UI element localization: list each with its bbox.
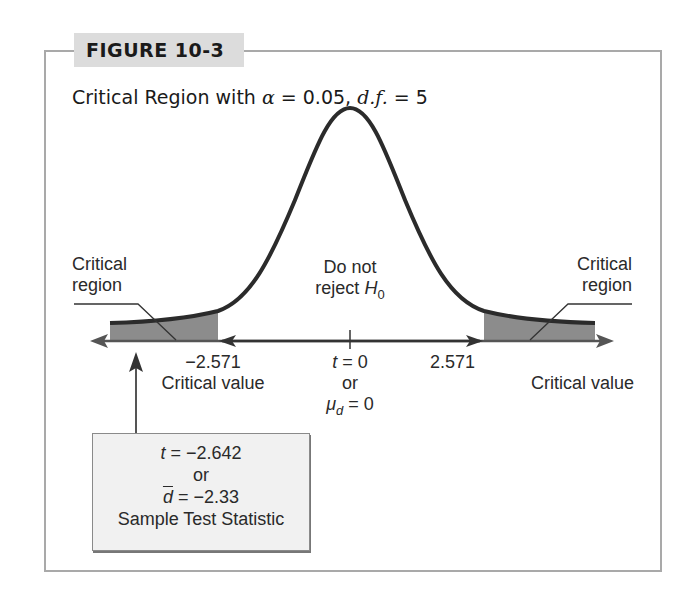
right-region-line1: Critical bbox=[560, 254, 632, 275]
center-value-label: t = 0 or μd = 0 bbox=[300, 352, 400, 421]
stat-t-value: = −2.642 bbox=[165, 443, 241, 463]
center-or: or bbox=[300, 373, 400, 394]
right-critical-value-label: 2.571 Critical value bbox=[414, 352, 634, 394]
left-region-label: Critical region bbox=[72, 254, 127, 296]
sample-test-statistic-box: t = −2.642 or d = −2.33 Sample Test Stat… bbox=[92, 433, 310, 551]
left-critical-value-label: −2.571 Critical value bbox=[148, 352, 278, 394]
mu-symbol: μ bbox=[326, 394, 336, 414]
stat-caption: Sample Test Statistic bbox=[93, 508, 309, 530]
reject-h0-line: reject H0 bbox=[300, 278, 400, 305]
left-critical-value: −2.571 bbox=[148, 352, 278, 373]
do-not-line: Do not bbox=[300, 257, 400, 278]
right-critical-caption: Critical value bbox=[414, 373, 634, 394]
right-critical-value: 2.571 bbox=[414, 352, 634, 373]
left-critical-caption: Critical value bbox=[148, 373, 278, 394]
t-equals-zero: t = 0 bbox=[300, 352, 400, 373]
mu-equals-zero: μd = 0 bbox=[300, 394, 400, 421]
stat-t-line: t = −2.642 bbox=[93, 442, 309, 464]
mu-value: = 0 bbox=[343, 394, 374, 414]
do-not-reject-label: Do not reject H0 bbox=[300, 257, 400, 305]
t-value: = 0 bbox=[337, 352, 368, 372]
h-subscript: 0 bbox=[377, 287, 384, 302]
right-region-label: Critical region bbox=[560, 254, 632, 296]
stat-dbar-line: d = −2.33 bbox=[93, 486, 309, 508]
left-region-line1: Critical bbox=[72, 254, 127, 275]
stat-dbar-symbol: d bbox=[163, 487, 173, 507]
reject-text: reject bbox=[315, 278, 364, 298]
left-region-line2: region bbox=[72, 275, 127, 296]
stat-dbar-value: = −2.33 bbox=[173, 487, 239, 507]
right-region-line2: region bbox=[560, 275, 632, 296]
h-symbol: H bbox=[364, 278, 377, 298]
stat-or: or bbox=[93, 464, 309, 486]
